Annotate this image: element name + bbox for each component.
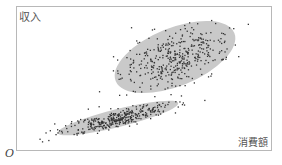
y-axis-label: 収入: [19, 8, 41, 24]
scatter-chart: 収入 消費額 O: [0, 0, 282, 165]
upper-cluster-ellipse: [105, 6, 245, 108]
x-axis-label: 消費額: [238, 134, 268, 149]
origin-label: O: [5, 147, 14, 160]
